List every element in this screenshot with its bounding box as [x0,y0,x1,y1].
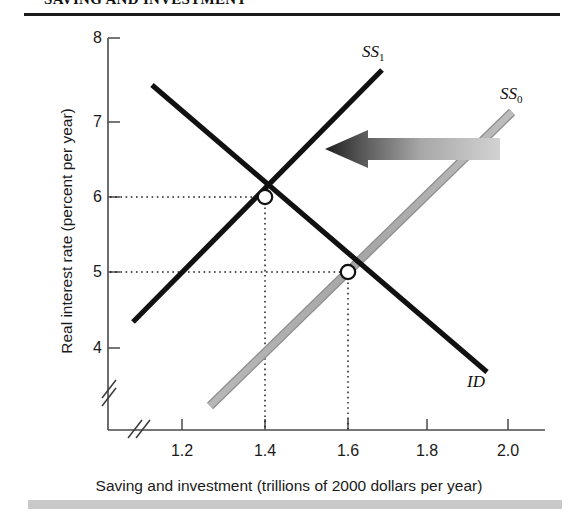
curve-id [152,85,487,372]
equilibrium-point-ss0 [341,265,355,279]
plot-svg [0,0,578,515]
figure-container: SAVING AND INVESTMENT Real interest rate… [0,0,578,515]
shift-arrow [325,130,500,168]
x-axis-ticks [182,419,508,430]
guide-lines [110,197,348,429]
y-axis-break-icon [102,380,116,406]
x-axis-break-icon [128,420,150,438]
equilibrium-point-ss1 [258,190,272,204]
y-axis-ticks [108,38,120,348]
